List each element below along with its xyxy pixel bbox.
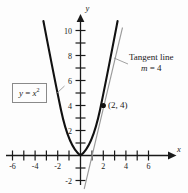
- y-tick-label: -2: [65, 177, 72, 186]
- tangent-title: Tangent line: [129, 52, 174, 63]
- x-tick-label: 2: [101, 162, 105, 171]
- point-marker-2-4: [101, 103, 106, 108]
- tangent-slope-equals: =: [148, 63, 158, 73]
- x-tick-labels: -6 -4 -2 2 4 6: [9, 162, 150, 171]
- tangent-slope-value: 4: [157, 63, 162, 73]
- y-tick-labels: 10 8 6 4 2 -2: [64, 27, 72, 186]
- x-tick-label: -6: [9, 162, 16, 171]
- graph-figure: -6 -4 -2 2 4 6 10 8 6 4 2 -2 x y y = x2 …: [0, 0, 188, 193]
- y-axis-label: y: [85, 3, 90, 13]
- y-tick-label: 2: [68, 127, 72, 136]
- curve-label-exponent: 2: [37, 87, 40, 93]
- curve-equation-label: y = x2: [12, 83, 47, 103]
- tangent-annotation: Tangent line m = 4: [129, 52, 174, 75]
- y-axis: [77, 14, 85, 185]
- curve-label-leader: [57, 86, 65, 93]
- x-axis-label: x: [176, 144, 181, 154]
- point-label-2-4: (2, 4): [108, 100, 128, 110]
- y-tick-label: 10: [64, 27, 72, 36]
- x-tick-label: -2: [54, 162, 61, 171]
- y-tick-label: 8: [68, 52, 72, 61]
- x-tick-label: -4: [32, 162, 39, 171]
- x-tick-label: 4: [124, 162, 128, 171]
- curve-label-equals: =: [23, 88, 33, 98]
- y-tick-label: 4: [68, 102, 72, 111]
- tangent-slope: m = 4: [129, 63, 174, 74]
- y-tick-label: 6: [68, 77, 72, 86]
- tangent-label-leader: [114, 58, 128, 64]
- x-tick-label: 6: [147, 162, 151, 171]
